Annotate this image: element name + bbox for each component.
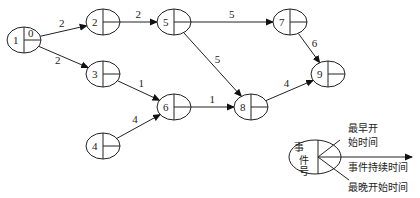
event-number-5: 5 xyxy=(163,17,169,28)
event-number-2: 2 xyxy=(92,17,98,28)
edge-duration-7-9: 6 xyxy=(312,38,318,49)
event-number-3: 3 xyxy=(92,69,98,80)
legend-earliest-start-line2: 始时间 xyxy=(348,137,378,148)
edge-duration-2-5: 2 xyxy=(136,9,142,20)
edge-duration-5-8: 5 xyxy=(215,54,221,65)
edge-duration-1-3: 2 xyxy=(55,55,61,66)
legend-event-char-1: 事 xyxy=(294,142,304,153)
event-number-9: 9 xyxy=(317,69,323,80)
edge-1-3 xyxy=(39,46,88,67)
edge-8-9 xyxy=(266,80,313,100)
edge-4-6 xyxy=(117,115,160,139)
event-number-8: 8 xyxy=(240,102,246,113)
legend-event-char-2: 件 xyxy=(299,155,309,166)
edge-duration-6-8: 1 xyxy=(210,94,216,105)
edge-duration-1-2: 2 xyxy=(59,18,65,29)
earliest-start-1: 0 xyxy=(28,28,34,39)
edge-duration-4-6: 4 xyxy=(132,114,138,125)
event-number-7: 7 xyxy=(279,17,285,28)
edge-duration-5-7: 5 xyxy=(229,9,235,20)
edge-5-8 xyxy=(184,33,242,97)
event-number-4: 4 xyxy=(92,141,98,152)
legend-earliest-start-line1: 最早开 xyxy=(348,123,378,134)
event-number-1: 1 xyxy=(13,35,19,46)
event-number-6: 6 xyxy=(163,102,169,113)
edge-duration-8-9: 4 xyxy=(284,78,290,89)
legend-duration: 事件持续时间 xyxy=(348,162,408,173)
edge-duration-3-6: 1 xyxy=(138,78,144,89)
legend-latest-start: 最晚开始时间 xyxy=(348,182,408,193)
legend-event-char-3: 号 xyxy=(299,166,309,177)
